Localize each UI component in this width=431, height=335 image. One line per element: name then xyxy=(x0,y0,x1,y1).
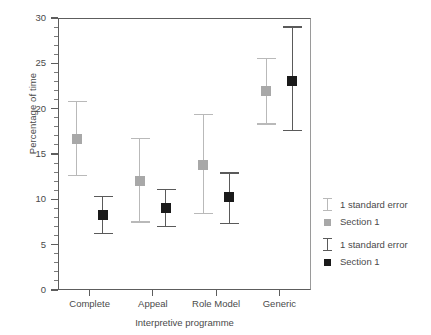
y-axis-minor-tick xyxy=(54,253,58,254)
y-axis-minor-tick xyxy=(54,271,58,272)
y-axis-tick-label: 0 xyxy=(6,284,46,295)
square-marker-icon xyxy=(320,213,336,230)
legend-item: Section 1 xyxy=(320,253,431,270)
y-axis-minor-tick xyxy=(54,45,58,46)
x-axis-tick xyxy=(216,290,217,296)
data-point-marker xyxy=(72,134,82,144)
error-bar-cap xyxy=(283,130,302,131)
y-axis-minor-tick xyxy=(54,81,58,82)
x-axis-title: Interpretive programme xyxy=(58,317,311,328)
error-bar-cap xyxy=(94,196,113,197)
error-bar-cap xyxy=(68,175,87,176)
data-point-marker xyxy=(287,76,297,86)
y-axis-minor-tick xyxy=(54,117,58,118)
y-axis-tick-label: 25 xyxy=(6,57,46,68)
y-axis-tick xyxy=(51,199,58,200)
error-bar-cap xyxy=(220,172,239,173)
x-axis-tick xyxy=(152,290,153,296)
chart-figure: Percentage of time 051015202530 Complete… xyxy=(0,0,431,335)
data-point-marker xyxy=(198,160,208,170)
y-axis-minor-tick xyxy=(54,90,58,91)
legend-item: 1 standard error xyxy=(320,236,431,253)
data-point-marker xyxy=(261,86,271,96)
error-bar-cap xyxy=(257,58,276,59)
y-axis-minor-tick xyxy=(54,226,58,227)
y-axis-minor-tick xyxy=(54,72,58,73)
error-bar-cap xyxy=(157,226,176,227)
legend-label: 1 standard error xyxy=(336,199,408,210)
y-axis-minor-tick xyxy=(54,27,58,28)
y-axis-tick xyxy=(51,289,58,290)
square-marker-icon xyxy=(320,253,336,270)
error-bar-icon xyxy=(320,196,336,213)
legend-item: Section 1 xyxy=(320,213,431,230)
y-axis-minor-tick xyxy=(54,99,58,100)
y-axis-minor-tick xyxy=(54,163,58,164)
y-axis-tick xyxy=(51,17,58,18)
error-bar-cap xyxy=(194,114,213,115)
error-bar-cap xyxy=(131,221,150,222)
x-axis-tick xyxy=(89,290,90,296)
y-axis-minor-tick xyxy=(54,262,58,263)
y-axis-minor-tick xyxy=(54,217,58,218)
y-axis-minor-tick xyxy=(54,54,58,55)
y-axis-minor-tick xyxy=(54,36,58,37)
y-axis-tick-label: 30 xyxy=(6,12,46,23)
error-bar-cap xyxy=(68,101,87,102)
legend-label: Section 1 xyxy=(336,216,380,227)
x-axis-tick-label: Generic xyxy=(234,298,324,309)
error-bar-cap xyxy=(283,26,302,27)
legend-item: 1 standard error xyxy=(320,196,431,213)
y-axis-minor-tick xyxy=(54,190,58,191)
y-axis-minor-tick xyxy=(54,126,58,127)
y-axis-minor-tick xyxy=(54,172,58,173)
x-axis-tick xyxy=(279,290,280,296)
data-point-marker xyxy=(98,210,108,220)
error-bar-cap xyxy=(257,123,276,124)
y-axis-tick-label: 5 xyxy=(6,239,46,250)
y-axis-tick-label: 15 xyxy=(6,148,46,159)
y-axis-minor-tick xyxy=(54,135,58,136)
y-axis-tick xyxy=(51,244,58,245)
error-bar-cap xyxy=(194,213,213,214)
error-bar-cap xyxy=(94,233,113,234)
y-axis-tick xyxy=(51,108,58,109)
error-bar-icon xyxy=(320,236,336,253)
y-axis-minor-tick xyxy=(54,280,58,281)
y-axis-tick xyxy=(51,153,58,154)
legend: 1 standard errorSection 11 standard erro… xyxy=(320,196,431,270)
error-bar-cap xyxy=(220,223,239,224)
legend-label: Section 1 xyxy=(336,256,380,267)
y-axis-minor-tick xyxy=(54,144,58,145)
legend-label: 1 standard error xyxy=(336,239,408,250)
y-axis-minor-tick xyxy=(54,235,58,236)
y-axis-minor-tick xyxy=(54,181,58,182)
y-axis-tick-label: 20 xyxy=(6,103,46,114)
y-axis-tick-label: 10 xyxy=(6,193,46,204)
y-axis-minor-tick xyxy=(54,208,58,209)
data-point-marker xyxy=(161,203,171,213)
error-bar-cap xyxy=(157,189,176,190)
data-point-marker xyxy=(224,192,234,202)
data-point-marker xyxy=(135,176,145,186)
y-axis-tick xyxy=(51,63,58,64)
error-bar-cap xyxy=(131,138,150,139)
